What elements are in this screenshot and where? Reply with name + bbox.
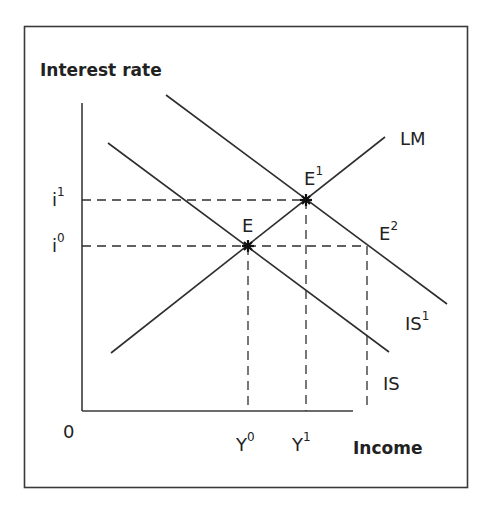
is-label: IS xyxy=(383,373,400,394)
point-e2-label: E2 xyxy=(379,219,398,244)
y-axis-label: Interest rate xyxy=(40,60,162,80)
point-e1-label: E1 xyxy=(304,164,323,189)
is-lm-diagram: Interest rate Income 0 LM IS1 IS E E1 E2… xyxy=(0,0,487,515)
origin-label: 0 xyxy=(63,421,74,442)
x-axis-label: Income xyxy=(353,438,422,458)
y1-tick-label: Y1 xyxy=(291,430,311,455)
is1-label: IS1 xyxy=(405,309,429,334)
diagram-frame xyxy=(25,27,468,488)
lm-label: LM xyxy=(400,128,426,149)
y0-tick-label: Y0 xyxy=(235,430,255,455)
point-e-label: E xyxy=(242,215,253,236)
i0-tick-label: i0 xyxy=(52,231,65,256)
i1-tick-label: i1 xyxy=(52,185,65,210)
